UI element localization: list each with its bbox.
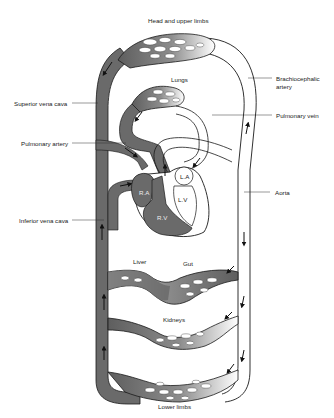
label-gut: Gut bbox=[183, 260, 193, 268]
label-pulmonary-vein: Pulmonary vein bbox=[276, 112, 319, 120]
liver-gut-capillary-bed bbox=[108, 270, 238, 304]
label-right-atrium: R.A bbox=[139, 189, 149, 197]
label-left-atrium: L.A bbox=[180, 173, 189, 181]
lung-capillary-bed bbox=[132, 86, 184, 112]
label-brachiocephalic-2: artery bbox=[276, 83, 292, 91]
diagram-graphic bbox=[0, 0, 334, 418]
label-inferior-vena-cava: Inferior vena cava bbox=[19, 217, 68, 225]
label-lungs: Lungs bbox=[171, 76, 188, 84]
pulmonary-vein-vessel bbox=[176, 106, 208, 170]
label-head-upper-limbs: Head and upper limbs bbox=[148, 17, 209, 25]
head-capillary-bed bbox=[118, 34, 215, 68]
label-liver: Liver bbox=[133, 258, 146, 266]
label-superior-vena-cava: Superior vena cava bbox=[14, 100, 67, 108]
label-kidneys: Kidneys bbox=[163, 316, 185, 324]
label-right-ventricle: R.V bbox=[157, 214, 167, 222]
label-lower-limbs: Lower limbs bbox=[158, 403, 191, 411]
heart bbox=[132, 167, 209, 237]
label-left-ventricle: L.V bbox=[178, 196, 187, 204]
label-brachiocephalic-1: Brachiocephalic bbox=[276, 75, 320, 83]
label-pulmonary-artery: Pulmonary artery bbox=[21, 140, 68, 148]
circulatory-diagram: Head and upper limbs Lungs Brachiocephal… bbox=[0, 0, 334, 418]
label-aorta: Aorta bbox=[275, 189, 290, 197]
